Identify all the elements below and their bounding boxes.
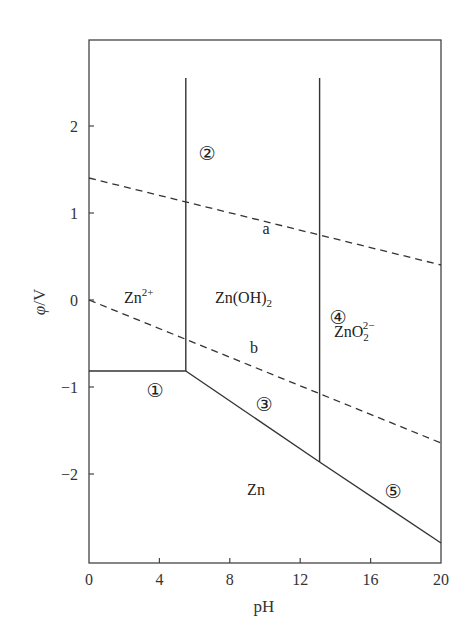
x-tick-label: 8 — [226, 571, 234, 588]
number-2: ② — [198, 142, 215, 164]
x-axis — [159, 558, 370, 563]
x-tick-label: 20 — [433, 571, 449, 588]
number-1: ① — [146, 379, 163, 401]
x-tick-label: 0 — [85, 571, 93, 588]
boundary-5 — [320, 462, 441, 543]
y-axis-title: φ/V — [30, 288, 49, 315]
y-tick-labels: 2 1 0 −1 −2 — [61, 118, 78, 483]
svg-text:φ/V: φ/V — [30, 288, 49, 315]
y-tick-label: −1 — [61, 379, 78, 396]
x-axis-title: pH — [254, 597, 275, 616]
y-tick-label: 2 — [70, 118, 78, 135]
label-b: b — [250, 339, 258, 356]
number-3: ③ — [255, 393, 272, 415]
x-tick-label: 4 — [155, 571, 163, 588]
region-zn-oh-2: Zn(OH)2 — [215, 289, 272, 309]
y-tick-label: −2 — [61, 466, 78, 483]
number-4: ④ — [329, 306, 346, 328]
y-axis-symbol: φ — [30, 306, 49, 315]
region-zn: Zn — [247, 481, 265, 498]
label-a: a — [262, 220, 269, 237]
y-axis-unit: /V — [30, 288, 49, 306]
potential-ph-diagram: 2 1 0 −1 −2 0 4 8 12 16 20 pH φ/V Zn2+ Z… — [0, 0, 469, 639]
number-5: ⑤ — [384, 480, 401, 502]
region-zn2plus: Zn2+ — [124, 286, 154, 306]
y-tick-label: 0 — [70, 292, 78, 309]
boundary-3 — [186, 371, 320, 462]
x-tick-label: 16 — [363, 571, 379, 588]
x-tick-label: 12 — [292, 571, 308, 588]
y-tick-label: 1 — [70, 205, 78, 222]
x-tick-labels: 0 4 8 12 16 20 — [85, 571, 449, 588]
